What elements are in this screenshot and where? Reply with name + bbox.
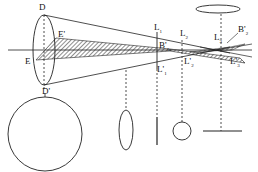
label-L2-prime: L'2 xyxy=(184,57,194,68)
b2-pointer xyxy=(227,33,238,43)
small-circle xyxy=(173,122,191,140)
hatched-beam-3 xyxy=(190,44,245,52)
flat-ellipse xyxy=(196,5,240,13)
label-L3-prime: L'3 xyxy=(230,57,240,68)
label-D-prime: D' xyxy=(42,87,50,96)
optical-diagram xyxy=(0,0,258,172)
label-L3: L3 xyxy=(214,33,222,44)
label-L2: L2 xyxy=(180,29,188,40)
hatched-beam-1 xyxy=(36,38,170,60)
label-D: D xyxy=(39,3,46,12)
label-E: E xyxy=(25,57,31,66)
label-L1-prime: L'1 xyxy=(157,65,167,76)
narrow-ellipse xyxy=(119,110,133,150)
label-L1: L1 xyxy=(154,23,162,34)
large-circle xyxy=(8,97,82,171)
label-B1: B'1 xyxy=(159,41,169,52)
label-E-prime: E' xyxy=(58,30,65,39)
label-B2: B'2 xyxy=(238,25,248,36)
